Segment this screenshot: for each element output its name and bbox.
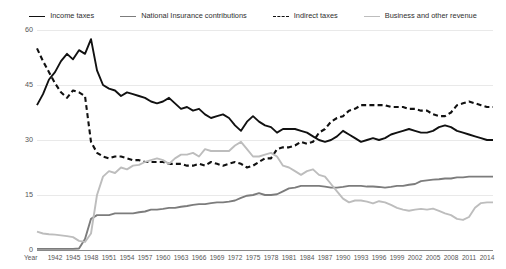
y-axis-labels: 015304560 [5,30,33,250]
y-tick-label: 30 [7,136,33,144]
x-tick-label: 1954 [120,254,135,262]
x-tick-label: 1969 [210,254,225,262]
legend-label: National Insurance contributions [141,12,247,20]
x-tick-label: 2008 [444,254,459,262]
legend-item-business-and-other-revenue[interactable]: Business and other revenue [364,12,477,20]
y-tick-label: 45 [7,81,33,89]
legend-label: Indirect taxes [294,12,338,20]
chart-legend: Income taxesNational Insurance contribut… [0,9,506,23]
series-line-indirect-taxes [37,48,493,167]
x-tick-label: 2002 [408,254,423,262]
x-tick-label: 1984 [300,254,315,262]
legend-label: Business and other revenue [385,12,477,20]
y-tick-label: 0 [7,246,33,254]
x-tick-label: 2014 [480,254,495,262]
x-tick-label: 1948 [84,254,99,262]
x-tick-label: 1999 [390,254,405,262]
legend-swatch-icon [273,16,289,17]
y-tick-label: 15 [7,191,33,199]
x-tick-label: 1945 [66,254,81,262]
legend-swatch-icon [364,16,380,17]
x-tick-label: 1993 [354,254,369,262]
plot-svg [37,30,493,250]
x-tick-label: 1960 [156,254,171,262]
x-tick-label: 1963 [174,254,189,262]
legend-swatch-icon [120,16,136,17]
x-tick-label: 1978 [264,254,279,262]
y-tick-label: 60 [7,26,33,34]
x-tick-label: 1957 [138,254,153,262]
plot-area [37,30,493,250]
legend-item-income-taxes[interactable]: Income taxes [29,12,94,20]
x-tick-label: 1981 [282,254,297,262]
x-tick-label: 1942 [48,254,63,262]
revenue-composition-chart: Income taxesNational Insurance contribut… [0,0,506,269]
x-tick-label: 1996 [372,254,387,262]
legend-item-indirect-taxes[interactable]: Indirect taxes [273,12,338,20]
legend-swatch-icon [29,16,45,17]
series-line-income-taxes [37,39,493,142]
x-tick-label: 1975 [246,254,261,262]
x-tick-label: 1987 [318,254,333,262]
legend-label: Income taxes [50,12,94,20]
x-tick-label: 2005 [426,254,441,262]
x-axis-labels: 1942194519481951195419571960196319661969… [0,254,506,266]
x-tick-label: 1966 [192,254,207,262]
series-line-national-insurance-contributions [37,177,493,249]
legend-item-national-insurance-contributions[interactable]: National Insurance contributions [120,12,247,20]
x-tick-label: 1951 [102,254,117,262]
x-tick-label: 1972 [228,254,243,262]
x-tick-label: 2011 [462,254,476,262]
x-tick-label: 1990 [336,254,351,262]
